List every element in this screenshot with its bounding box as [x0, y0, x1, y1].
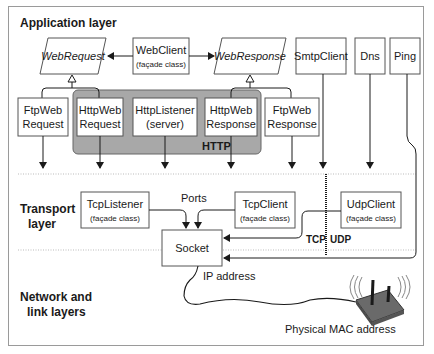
tcp-listener-node[interactable]: TcpListener (façade class): [81, 192, 149, 228]
web-client-node[interactable]: WebClient (façade class): [133, 38, 189, 74]
tcp-label: TCP: [306, 234, 326, 245]
http-web-response-node[interactable]: HttpWeb Response: [205, 98, 257, 136]
web-request-node[interactable]: WebRequest: [40, 38, 106, 74]
ftp-web-request-label-2: Request: [23, 118, 64, 130]
transport-layer-label-2: layer: [28, 217, 56, 231]
ftp-web-response-node[interactable]: FtpWeb Response: [265, 98, 319, 136]
http-listener-label-1: HttpListener: [135, 104, 195, 116]
network-layer-label-2: link layers: [27, 305, 86, 319]
inheritance-triangle-webresponse: [246, 75, 254, 82]
http-listener-node[interactable]: HttpListener (server): [133, 98, 197, 136]
http-group-label: HTTP: [202, 140, 231, 152]
web-response-node[interactable]: WebResponse: [214, 38, 286, 74]
ftp-web-response-label-2: Response: [267, 118, 317, 130]
ping-label: Ping: [394, 50, 416, 62]
http-listener-label-2: (server): [146, 118, 184, 130]
tcp-listener-label: TcpListener: [87, 198, 144, 210]
web-request-label: WebRequest: [41, 50, 105, 62]
ftp-web-request-label-1: FtpWeb: [24, 104, 62, 116]
dns-node[interactable]: Dns: [355, 38, 385, 74]
udp-client-sub: (façade class): [346, 214, 396, 223]
udp-client-label: UdpClient: [347, 198, 395, 210]
web-client-sub: (façade class): [136, 60, 186, 69]
socket-label: Socket: [175, 242, 209, 254]
network-layer-label-1: Network and: [20, 290, 92, 304]
ftp-web-request-node[interactable]: FtpWeb Request: [18, 98, 68, 136]
ping-node[interactable]: Ping: [390, 38, 420, 74]
tcp-listener-sub: (façade class): [90, 214, 140, 223]
http-web-response-label-1: HttpWeb: [210, 104, 253, 116]
ftp-web-response-label-1: FtpWeb: [273, 104, 311, 116]
web-client-label: WebClient: [136, 44, 187, 56]
web-response-label: WebResponse: [214, 50, 286, 62]
http-web-request-label-1: HttpWeb: [79, 104, 122, 116]
smtp-client-node[interactable]: SmtpClient: [294, 38, 348, 74]
udp-client-node[interactable]: UdpClient (façade class): [341, 192, 401, 228]
inheritance-triangle-webrequest: [68, 75, 76, 82]
ip-address-label: IP address: [203, 270, 256, 282]
http-web-request-label-2: Request: [80, 118, 121, 130]
network-architecture-diagram: Application layer Transport layer Networ…: [0, 0, 434, 354]
mac-address-label: Physical MAC address: [285, 323, 396, 335]
router-icon: [350, 275, 410, 326]
transport-layer-label-1: Transport: [20, 202, 75, 216]
http-web-request-node[interactable]: HttpWeb Request: [77, 98, 123, 136]
tcp-client-node[interactable]: TcpClient (façade class): [235, 192, 295, 228]
application-layer-label: Application layer: [20, 16, 117, 30]
http-web-response-label-2: Response: [206, 118, 256, 130]
socket-node[interactable]: Socket: [162, 230, 222, 266]
dns-label: Dns: [360, 50, 380, 62]
tcp-client-label: TcpClient: [242, 198, 287, 210]
tcp-client-sub: (façade class): [240, 214, 290, 223]
ports-label: Ports: [181, 192, 207, 204]
smtp-client-label: SmtpClient: [294, 50, 348, 62]
udp-label: UDP: [330, 234, 351, 245]
